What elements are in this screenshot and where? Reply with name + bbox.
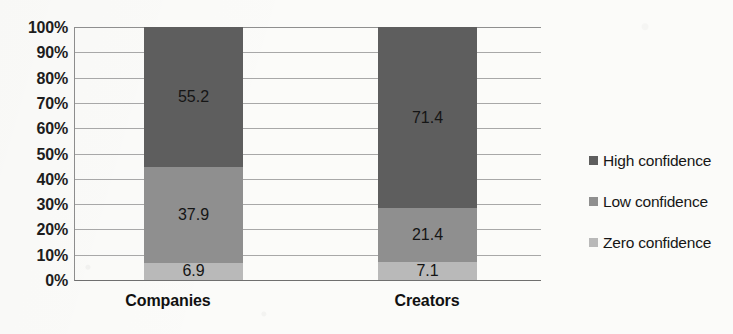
legend-swatch-zero-confidence-icon xyxy=(589,238,598,247)
y-tick-40: 40% xyxy=(6,172,68,188)
bar-segment-companies-high[interactable]: 55.2 xyxy=(144,27,243,167)
bar-companies[interactable]: 55.2 37.9 6.9 xyxy=(144,27,243,280)
y-axis: 100% 90% 80% 70% 60% 50% 40% 30% 20% 10%… xyxy=(0,27,68,280)
data-label-companies-high: 55.2 xyxy=(178,88,209,106)
bar-segment-creators-low[interactable]: 21.4 xyxy=(378,208,477,262)
y-tick-50: 50% xyxy=(6,147,68,163)
legend-swatch-high-confidence-icon xyxy=(589,156,598,165)
bar-segment-creators-high[interactable]: 71.4 xyxy=(378,27,477,208)
legend-label-high-confidence: High confidence xyxy=(603,152,711,170)
legend-label-zero-confidence: Zero confidence xyxy=(603,234,711,252)
legend-label-low-confidence: Low confidence xyxy=(603,193,708,211)
bar-segment-creators-zero[interactable]: 7.1 xyxy=(378,262,477,280)
data-label-creators-low: 21.4 xyxy=(412,226,443,244)
legend-item-zero-confidence[interactable]: Zero confidence xyxy=(589,222,729,263)
legend-swatch-low-confidence-icon xyxy=(589,197,598,206)
y-tick-60: 60% xyxy=(6,121,68,137)
bar-segment-companies-zero[interactable]: 6.9 xyxy=(144,263,243,280)
data-label-companies-low: 37.9 xyxy=(178,206,209,224)
legend: High confidence Low confidence Zero conf… xyxy=(589,140,729,263)
bar-segment-companies-low[interactable]: 37.9 xyxy=(144,167,243,263)
category-label-companies: Companies xyxy=(93,292,243,310)
y-tick-20: 20% xyxy=(6,222,68,238)
category-label-creators: Creators xyxy=(352,292,502,310)
plot-area: 55.2 37.9 6.9 71.4 21.4 7.1 xyxy=(74,27,541,281)
data-label-companies-zero: 6.9 xyxy=(182,262,204,280)
y-tick-30: 30% xyxy=(6,197,68,213)
y-tick-0: 0% xyxy=(6,273,68,289)
y-tick-70: 70% xyxy=(6,96,68,112)
y-tick-100: 100% xyxy=(6,20,68,36)
bar-creators[interactable]: 71.4 21.4 7.1 xyxy=(378,27,477,280)
y-tick-10: 10% xyxy=(6,248,68,264)
legend-item-low-confidence[interactable]: Low confidence xyxy=(589,181,729,222)
data-label-creators-high: 71.4 xyxy=(412,109,443,127)
chart-page: 100% 90% 80% 70% 60% 50% 40% 30% 20% 10%… xyxy=(0,0,733,334)
legend-item-high-confidence[interactable]: High confidence xyxy=(589,140,729,181)
y-tick-90: 90% xyxy=(6,45,68,61)
data-label-creators-zero: 7.1 xyxy=(416,262,438,280)
y-tick-80: 80% xyxy=(6,71,68,87)
